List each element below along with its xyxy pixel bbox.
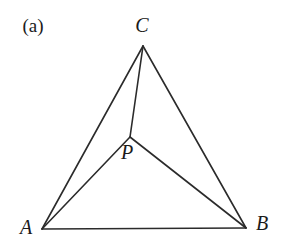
vertex-label-c: C <box>135 15 148 35</box>
segment-bp <box>130 137 246 228</box>
vertex-label-a: A <box>20 217 32 237</box>
panel-label: (a) <box>22 16 43 35</box>
triangle-diagram <box>0 0 282 252</box>
vertex-label-p: P <box>121 142 133 162</box>
segment-ac <box>42 46 143 229</box>
segment-layer <box>42 46 246 229</box>
segment-bc <box>143 46 246 228</box>
figure-panel: (a) C P A B <box>0 0 282 252</box>
segment-ab <box>42 228 246 229</box>
vertex-label-b: B <box>256 213 268 233</box>
segment-cp <box>130 46 143 137</box>
